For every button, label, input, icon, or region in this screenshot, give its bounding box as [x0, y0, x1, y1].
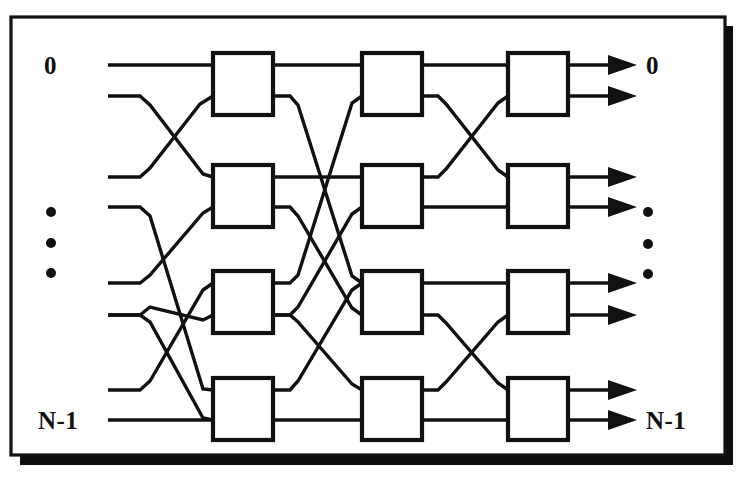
output-ellipsis-dot-3: [643, 269, 653, 279]
switch-s2-0[interactable]: [362, 53, 422, 115]
label-output-last: N-1: [646, 407, 686, 434]
switch-s3-1[interactable]: [508, 165, 568, 227]
switch-s1-2[interactable]: [213, 271, 273, 333]
switch-s1-3[interactable]: [213, 378, 273, 440]
switch-s1-0[interactable]: [213, 53, 273, 115]
switch-s3-0[interactable]: [508, 53, 568, 115]
figure-root: 0 N-1 0 N-1: [0, 0, 752, 486]
input-ellipsis-dot-1: [46, 207, 56, 217]
switch-s1-1[interactable]: [213, 165, 273, 227]
network-diagram: 0 N-1 0 N-1: [0, 0, 752, 486]
input-ellipsis-dot-2: [46, 238, 56, 248]
label-input-last: N-1: [38, 407, 78, 434]
label-output-first: 0: [646, 52, 659, 79]
output-ellipsis-dot-1: [643, 207, 653, 217]
label-input-first: 0: [44, 52, 57, 79]
input-ellipsis-dot-3: [46, 268, 56, 278]
switch-s2-1[interactable]: [362, 165, 422, 227]
switch-s3-2[interactable]: [508, 271, 568, 333]
switch-s2-2[interactable]: [362, 271, 422, 333]
output-ellipsis-dot-2: [643, 239, 653, 249]
switch-s3-3[interactable]: [508, 378, 568, 440]
switch-s2-3[interactable]: [362, 378, 422, 440]
